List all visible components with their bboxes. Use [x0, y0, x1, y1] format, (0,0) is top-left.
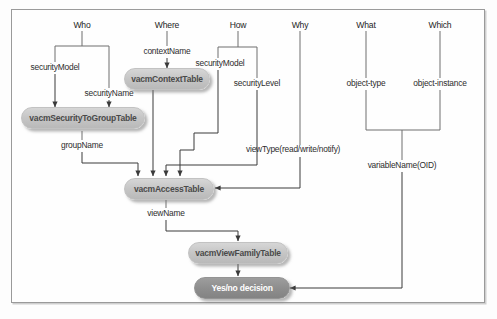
node-vacm-security-to-group-table-label: vacmSecurityToGroupTable	[29, 114, 136, 123]
diagram-canvas: Who Where How Why What Which securityMod…	[0, 0, 497, 319]
edge-label-security-level: securityLevel	[234, 78, 280, 88]
question-label-which: Which	[429, 20, 452, 30]
edge-label-variable-name: variableName(OID)	[368, 160, 437, 170]
node-vacm-access-table-label: vacmAccessTable	[134, 185, 204, 194]
wire-viewname-to-viewfamily	[166, 220, 238, 241]
node-vacm-view-family-table-label: vacmViewFamilyTable	[195, 249, 281, 258]
wire-groupname-to-access	[82, 152, 138, 176]
question-label-what: What	[356, 20, 375, 30]
edge-label-view-type: viewType(read/write/notify)	[246, 144, 340, 154]
question-label-how: How	[230, 20, 247, 30]
edge-label-security-name: securityName	[85, 88, 134, 98]
edge-label-group-name: groupName	[61, 140, 103, 150]
node-yes-no-decision-label: Yes/no decision	[211, 284, 272, 293]
node-vacm-context-table-label: vacmContextTable	[131, 75, 203, 84]
edge-label-security-model-how: securityModel	[195, 58, 244, 68]
edge-label-view-name: viewName	[147, 208, 185, 218]
edge-label-object-instance: object-instance	[413, 78, 466, 88]
question-label-where: Where	[155, 20, 179, 30]
edge-label-object-type: object-type	[347, 78, 386, 88]
edge-label-security-model-who: securityModel	[30, 62, 79, 72]
node-vacm-security-to-group-table[interactable]: vacmSecurityToGroupTable	[21, 107, 145, 129]
node-vacm-view-family-table[interactable]: vacmViewFamilyTable	[188, 242, 288, 264]
question-label-who: Who	[73, 20, 90, 30]
edge-label-context-name: contextName	[143, 46, 190, 56]
node-yes-no-decision[interactable]: Yes/no decision	[194, 277, 290, 299]
question-label-why: Why	[292, 20, 309, 30]
node-vacm-access-table[interactable]: vacmAccessTable	[124, 178, 214, 200]
wire-variablename-to-decision	[290, 172, 402, 288]
node-vacm-context-table[interactable]: vacmContextTable	[124, 68, 210, 90]
